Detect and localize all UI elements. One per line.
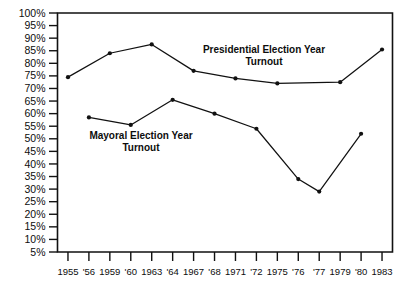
- y-tick-label: 75%: [24, 69, 45, 81]
- turnout-line-chart: 100%95%90%85%80%75%70%65%60%55%50%45%40%…: [0, 0, 409, 294]
- x-tick-label: '72: [250, 266, 262, 277]
- x-tick-label: '77: [313, 266, 325, 277]
- x-tick-label: '68: [208, 266, 220, 277]
- data-point: [150, 42, 154, 46]
- data-point: [129, 123, 133, 127]
- x-tick-label: '80: [355, 266, 367, 277]
- data-point: [317, 190, 321, 194]
- y-tick-label: 60%: [24, 107, 45, 119]
- data-point: [338, 80, 342, 84]
- y-tick-label: 100%: [19, 7, 46, 19]
- mayoral-annotation: Mayoral Election YearTurnout: [89, 130, 192, 153]
- data-point: [296, 177, 300, 181]
- x-tick-label: '56: [83, 266, 95, 277]
- y-tick-label: 55%: [24, 120, 45, 132]
- data-point: [191, 69, 195, 73]
- y-axis: 100%95%90%85%80%75%70%65%60%55%50%45%40%…: [19, 7, 58, 258]
- y-tick-label: 30%: [24, 183, 45, 195]
- y-tick-label: 5%: [30, 246, 45, 258]
- data-point: [233, 76, 237, 80]
- x-tick-label: 1963: [141, 266, 162, 277]
- x-axis: 1955'561959'601963'641967'681971'721975'…: [57, 252, 392, 277]
- y-tick-label: 95%: [24, 19, 45, 31]
- data-point: [108, 51, 112, 55]
- mayoral-annotation-line2: Turnout: [122, 142, 160, 153]
- presidential-annotation-line2: Turnout: [245, 56, 283, 67]
- y-tick-label: 45%: [24, 145, 45, 157]
- chart-canvas: 100%95%90%85%80%75%70%65%60%55%50%45%40%…: [0, 0, 409, 294]
- y-tick-label: 40%: [24, 158, 45, 170]
- y-tick-label: 10%: [24, 233, 45, 245]
- presidential-annotation-line1: Presidential Election Year: [203, 44, 325, 55]
- x-tick-label: '64: [166, 266, 178, 277]
- x-tick-label: 1959: [99, 266, 120, 277]
- x-tick-label: '60: [125, 266, 137, 277]
- x-tick-label: 1967: [183, 266, 204, 277]
- y-tick-label: 70%: [24, 82, 45, 94]
- data-point: [254, 127, 258, 131]
- x-tick-label: 1975: [267, 266, 288, 277]
- x-tick-label: 1971: [225, 266, 246, 277]
- data-point: [212, 112, 216, 116]
- data-point: [171, 98, 175, 102]
- y-tick-label: 20%: [24, 208, 45, 220]
- x-tick-label: '76: [292, 266, 304, 277]
- mayoral-annotation-line1: Mayoral Election Year: [89, 130, 192, 141]
- data-point: [87, 115, 91, 119]
- presidential-annotation: Presidential Election YearTurnout: [203, 44, 325, 67]
- x-tick-label: 1955: [57, 266, 78, 277]
- y-tick-label: 80%: [24, 57, 45, 69]
- y-tick-label: 65%: [24, 95, 45, 107]
- y-tick-label: 50%: [24, 132, 45, 144]
- data-point: [275, 81, 279, 85]
- y-tick-label: 85%: [24, 44, 45, 56]
- data-point: [380, 47, 384, 51]
- y-tick-label: 25%: [24, 195, 45, 207]
- data-point: [66, 75, 70, 79]
- x-tick-label: 1979: [330, 266, 351, 277]
- y-tick-label: 90%: [24, 32, 45, 44]
- y-tick-label: 15%: [24, 220, 45, 232]
- data-point: [359, 132, 363, 136]
- x-tick-label: 1983: [371, 266, 392, 277]
- y-tick-label: 35%: [24, 170, 45, 182]
